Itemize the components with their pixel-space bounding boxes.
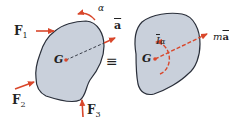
- equivalence-symbol: ≡: [106, 54, 118, 68]
- right-center-dot: [153, 57, 157, 61]
- inertia-force-label: ma: [213, 27, 229, 43]
- left-rigid-body: [36, 21, 104, 102]
- alpha-label: α: [98, 4, 104, 13]
- force-f1-label: F1: [14, 25, 28, 40]
- inertia-moment-label: Iα: [156, 31, 165, 47]
- right-center-label: G: [142, 53, 151, 64]
- diagram-canvas: [0, 0, 241, 119]
- force-f3-label: F3: [87, 104, 101, 119]
- force-f2-label: F2: [12, 94, 26, 109]
- force-f3-arrow: [82, 100, 83, 117]
- angular-acceleration-arrow: [78, 13, 95, 20]
- acceleration-arrow: [104, 38, 115, 43]
- acceleration-label: a: [114, 20, 121, 31]
- left-center-dot: [64, 58, 68, 62]
- left-center-label: G: [54, 54, 63, 65]
- force-f2-arrow: [15, 82, 34, 89]
